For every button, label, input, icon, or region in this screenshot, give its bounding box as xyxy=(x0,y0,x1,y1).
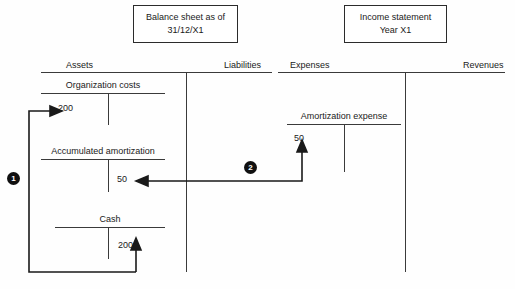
account-title-amortization-expense: Amortization expense xyxy=(287,111,401,121)
income-statement-line-2: Year X1 xyxy=(345,24,446,37)
flow-2-arrowhead-left xyxy=(136,176,148,186)
income-statement-title-box: Income statement Year X1 xyxy=(344,5,447,43)
balance-sheet-title-box: Balance sheet as of 31/12/X1 xyxy=(133,5,238,43)
column-header-revenues: Revenues xyxy=(463,60,504,70)
account-title-cash: Cash xyxy=(55,214,165,224)
amount-accumulated-amortization-credit: 50 xyxy=(117,174,127,184)
income-statement-line-1: Income statement xyxy=(345,11,446,24)
amount-amortization-expense-debit: 50 xyxy=(294,133,304,143)
flow-marker-1: 1 xyxy=(7,172,20,185)
amount-cash-credit: 200 xyxy=(118,240,133,250)
column-header-assets: Assets xyxy=(66,60,93,70)
account-title-organization-costs: Organization costs xyxy=(41,80,165,90)
balance-sheet-line-2: 31/12/X1 xyxy=(134,24,237,37)
amount-organization-costs-debit: 200 xyxy=(58,103,73,113)
column-header-liabilities: Liabilities xyxy=(224,60,261,70)
flow-marker-2: 2 xyxy=(244,161,257,174)
balance-sheet-line-1: Balance sheet as of xyxy=(134,11,237,24)
diagram-lines xyxy=(0,0,515,289)
t-account-diagram: Balance sheet as of 31/12/X1 Income stat… xyxy=(0,0,515,289)
flow-2-path xyxy=(148,152,302,181)
column-header-expenses: Expenses xyxy=(290,60,330,70)
account-title-accumulated-amortization: Accumulated amortization xyxy=(38,146,168,156)
